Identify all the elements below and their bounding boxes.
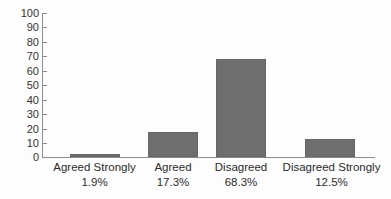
category-value: 12.5%	[272, 175, 391, 190]
y-axis-label-50: 50	[27, 80, 39, 91]
y-axis-label-90: 90	[27, 22, 39, 33]
bar-disagreed-strongly	[305, 139, 355, 157]
bar-chart: 100 90 80 70 60 50 40 30 20 10 0 Agreed …	[0, 0, 391, 199]
y-axis-label-100: 100	[21, 8, 39, 19]
y-axis-label-60: 60	[27, 66, 39, 77]
bar-agreed	[148, 132, 198, 157]
x-axis-line	[42, 157, 375, 158]
y-axis-label-80: 80	[27, 37, 39, 48]
bar-disagreed	[216, 59, 266, 157]
y-axis-label-30: 30	[27, 109, 39, 120]
category-name: Disagreed Strongly	[272, 160, 391, 175]
y-axis-label-70: 70	[27, 51, 39, 62]
y-axis-label-10: 10	[27, 138, 39, 149]
x-axis-label-disagreed-strongly: Disagreed Strongly 12.5%	[272, 160, 391, 190]
y-axis-label-40: 40	[27, 95, 39, 106]
plot-area	[42, 13, 375, 157]
y-axis-label-20: 20	[27, 124, 39, 135]
